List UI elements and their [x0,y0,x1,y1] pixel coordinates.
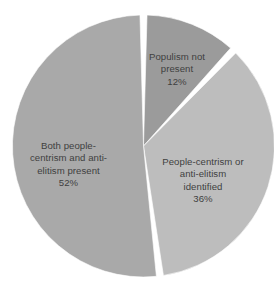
pie-slice-both-present[interactable] [12,15,156,277]
pie-chart: Populism not present 12% Both people- ce… [0,0,274,291]
pie-chart-canvas [0,0,274,291]
pie-slices [12,15,274,277]
